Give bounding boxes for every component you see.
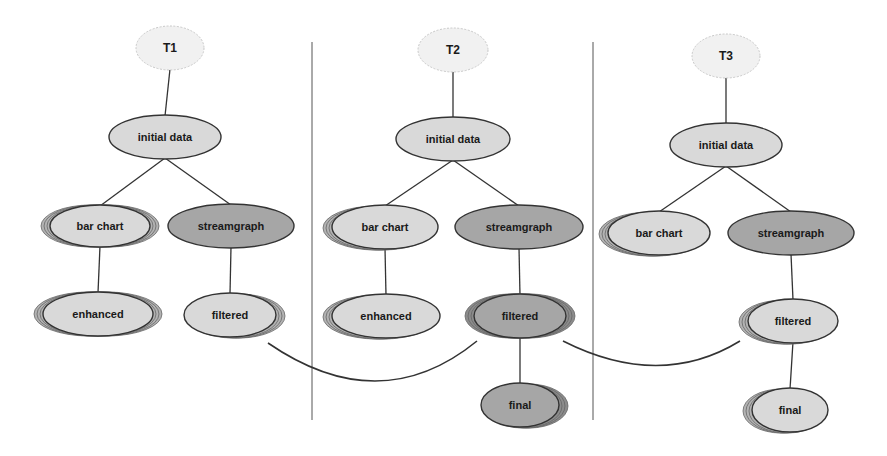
panel-t1: T1initial databar chartstreamgraphenhanc… [34, 26, 294, 338]
node-filtered[interactable]: filtered [184, 293, 285, 338]
node-bar-chart[interactable]: bar chart [41, 205, 159, 247]
tree-edge [791, 254, 793, 300]
cross-panel-links [268, 341, 740, 381]
node-label: initial data [699, 139, 754, 151]
node-initial-data[interactable]: initial data [396, 117, 510, 161]
node-label: T3 [719, 49, 733, 63]
tree-edge [659, 166, 726, 212]
node-T3[interactable]: T3 [692, 34, 760, 78]
node-streamgraph[interactable]: streamgraph [728, 211, 854, 255]
node-label: enhanced [72, 308, 123, 320]
node-label: initial data [426, 133, 481, 145]
tree-edge [165, 69, 170, 116]
node-label: initial data [138, 131, 193, 143]
tree-edge [790, 342, 793, 389]
tree-edge [98, 246, 100, 293]
tree-edge [385, 160, 453, 206]
tree-edge [100, 158, 165, 206]
node-filtered[interactable]: filtered [465, 294, 575, 338]
node-final[interactable]: final [743, 388, 828, 433]
node-initial-data[interactable]: initial data [670, 123, 782, 167]
node-bar-chart[interactable]: bar chart [323, 205, 438, 250]
node-label: final [509, 399, 532, 411]
tree-nodes: T1initial databar chartstreamgraphenhanc… [34, 26, 854, 433]
version-tree-diagram: T1initial databar chartstreamgraphenhanc… [0, 0, 887, 456]
node-label: streamgraph [486, 221, 553, 233]
node-enhanced[interactable]: enhanced [323, 294, 440, 339]
node-label: filtered [212, 309, 249, 321]
version-link [563, 341, 740, 366]
node-streamgraph[interactable]: streamgraph [455, 205, 583, 249]
node-T1[interactable]: T1 [136, 26, 204, 70]
tree-edge [385, 248, 386, 295]
node-label: enhanced [360, 310, 411, 322]
node-streamgraph[interactable]: streamgraph [168, 204, 294, 248]
version-link [268, 341, 477, 381]
node-label: T2 [446, 43, 460, 57]
node-bar-chart[interactable]: bar chart [599, 211, 710, 256]
node-filtered[interactable]: filtered [739, 299, 838, 344]
node-label: filtered [775, 315, 812, 327]
node-label: bar chart [635, 227, 682, 239]
tree-edge [453, 160, 519, 206]
tree-edge [519, 248, 520, 295]
tree-edge [165, 158, 231, 205]
tree-edge [726, 166, 791, 212]
node-label: bar chart [76, 220, 123, 232]
node-enhanced[interactable]: enhanced [34, 292, 162, 336]
node-label: bar chart [361, 221, 408, 233]
node-label: filtered [502, 310, 539, 322]
node-label: streamgraph [198, 220, 265, 232]
node-label: final [779, 404, 802, 416]
node-T2[interactable]: T2 [418, 28, 488, 72]
node-label: T1 [163, 41, 177, 55]
tree-edge [230, 247, 231, 294]
node-initial-data[interactable]: initial data [109, 115, 221, 159]
node-final[interactable]: final [481, 383, 568, 428]
node-label: streamgraph [758, 227, 825, 239]
